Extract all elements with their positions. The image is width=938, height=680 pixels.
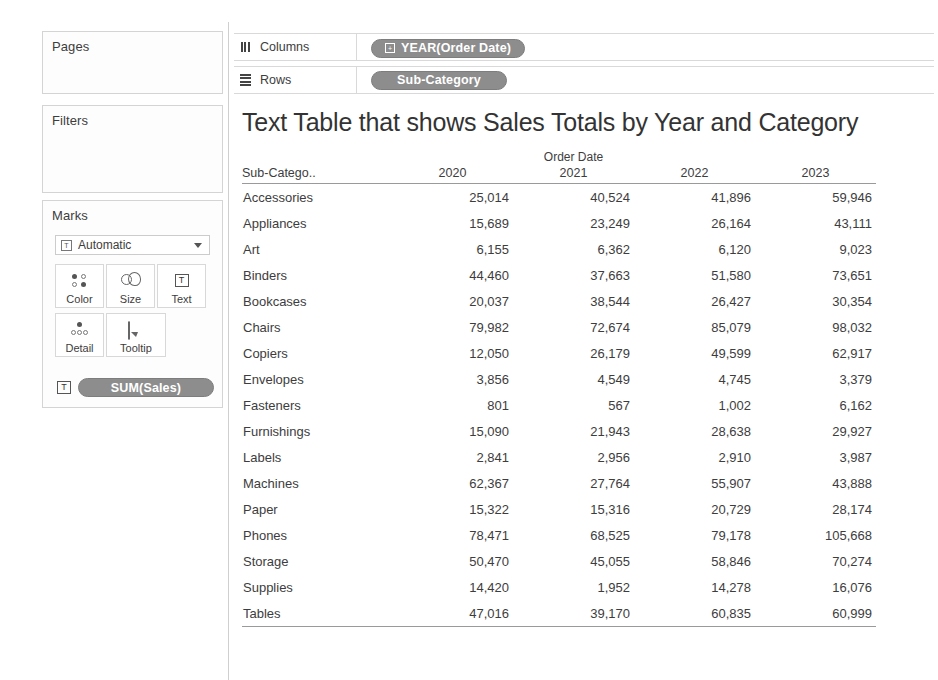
sales-value-cell[interactable]: 51,580: [634, 262, 755, 288]
row-category-cell[interactable]: Binders: [242, 262, 392, 288]
marks-detail-button[interactable]: Detail: [55, 313, 104, 357]
sales-value-cell[interactable]: 73,651: [755, 262, 876, 288]
row-category-cell[interactable]: Chairs: [242, 314, 392, 340]
sales-value-cell[interactable]: 6,162: [755, 392, 876, 418]
sales-value-cell[interactable]: 1,952: [513, 574, 634, 600]
sales-value-cell[interactable]: 30,354: [755, 288, 876, 314]
sales-value-cell[interactable]: 20,037: [392, 288, 513, 314]
sales-value-cell[interactable]: 14,278: [634, 574, 755, 600]
year-column-header-2023[interactable]: 2023: [755, 166, 876, 184]
row-category-cell[interactable]: Supplies: [242, 574, 392, 600]
sales-value-cell[interactable]: 26,164: [634, 210, 755, 236]
sales-value-cell[interactable]: 79,982: [392, 314, 513, 340]
year-column-header-2020[interactable]: 2020: [392, 166, 513, 184]
sales-value-cell[interactable]: 38,544: [513, 288, 634, 314]
row-category-cell[interactable]: Storage: [242, 548, 392, 574]
sum-sales-pill[interactable]: SUM(Sales): [78, 378, 214, 397]
sales-value-cell[interactable]: 78,471: [392, 522, 513, 548]
sales-value-cell[interactable]: 28,638: [634, 418, 755, 444]
sales-value-cell[interactable]: 50,470: [392, 548, 513, 574]
columns-shelf-row[interactable]: Columns + YEAR(Order Date): [234, 33, 934, 61]
sales-value-cell[interactable]: 39,170: [513, 600, 634, 627]
sales-value-cell[interactable]: 44,460: [392, 262, 513, 288]
sales-value-cell[interactable]: 62,917: [755, 340, 876, 366]
year-column-header-2022[interactable]: 2022: [634, 166, 755, 184]
row-category-cell[interactable]: Phones: [242, 522, 392, 548]
row-category-cell[interactable]: Envelopes: [242, 366, 392, 392]
sales-value-cell[interactable]: 3,856: [392, 366, 513, 392]
sales-value-cell[interactable]: 26,179: [513, 340, 634, 366]
sales-value-cell[interactable]: 43,111: [755, 210, 876, 236]
sales-value-cell[interactable]: 37,663: [513, 262, 634, 288]
sales-value-cell[interactable]: 567: [513, 392, 634, 418]
sales-value-cell[interactable]: 55,907: [634, 470, 755, 496]
sales-value-cell[interactable]: 72,674: [513, 314, 634, 340]
sales-value-cell[interactable]: 23,249: [513, 210, 634, 236]
sales-value-cell[interactable]: 4,745: [634, 366, 755, 392]
sales-value-cell[interactable]: 3,379: [755, 366, 876, 392]
sales-value-cell[interactable]: 49,599: [634, 340, 755, 366]
sales-value-cell[interactable]: 70,274: [755, 548, 876, 574]
sales-value-cell[interactable]: 25,014: [392, 184, 513, 211]
marks-text-button[interactable]: T Text: [157, 264, 206, 308]
sales-value-cell[interactable]: 68,525: [513, 522, 634, 548]
pages-shelf[interactable]: Pages: [42, 31, 223, 94]
row-category-cell[interactable]: Furnishings: [242, 418, 392, 444]
sales-value-cell[interactable]: 6,120: [634, 236, 755, 262]
sales-value-cell[interactable]: 4,549: [513, 366, 634, 392]
sales-value-cell[interactable]: 105,668: [755, 522, 876, 548]
sales-value-cell[interactable]: 12,050: [392, 340, 513, 366]
sales-value-cell[interactable]: 26,427: [634, 288, 755, 314]
row-category-cell[interactable]: Tables: [242, 600, 392, 627]
sales-value-cell[interactable]: 15,316: [513, 496, 634, 522]
sales-value-cell[interactable]: 2,910: [634, 444, 755, 470]
sales-value-cell[interactable]: 47,016: [392, 600, 513, 627]
row-category-cell[interactable]: Art: [242, 236, 392, 262]
sales-value-cell[interactable]: 16,076: [755, 574, 876, 600]
sales-value-cell[interactable]: 28,174: [755, 496, 876, 522]
sales-value-cell[interactable]: 98,032: [755, 314, 876, 340]
row-category-cell[interactable]: Appliances: [242, 210, 392, 236]
sub-category-pill[interactable]: Sub-Category: [371, 71, 507, 90]
sales-value-cell[interactable]: 79,178: [634, 522, 755, 548]
year-order-date-pill[interactable]: + YEAR(Order Date): [371, 39, 525, 58]
sales-value-cell[interactable]: 27,764: [513, 470, 634, 496]
sales-value-cell[interactable]: 40,524: [513, 184, 634, 211]
sales-value-cell[interactable]: 58,846: [634, 548, 755, 574]
sales-value-cell[interactable]: 62,367: [392, 470, 513, 496]
sub-category-column-header[interactable]: Sub-Catego..: [242, 166, 392, 184]
sales-value-cell[interactable]: 15,322: [392, 496, 513, 522]
year-column-header-2021[interactable]: 2021: [513, 166, 634, 184]
row-category-cell[interactable]: Bookcases: [242, 288, 392, 314]
marks-size-button[interactable]: Size: [106, 264, 155, 308]
marks-type-dropdown[interactable]: T Automatic: [55, 235, 210, 255]
row-category-cell[interactable]: Machines: [242, 470, 392, 496]
row-category-cell[interactable]: Paper: [242, 496, 392, 522]
filters-shelf[interactable]: Filters: [42, 105, 223, 193]
sales-value-cell[interactable]: 6,155: [392, 236, 513, 262]
row-category-cell[interactable]: Labels: [242, 444, 392, 470]
sales-value-cell[interactable]: 3,987: [755, 444, 876, 470]
sales-value-cell[interactable]: 59,946: [755, 184, 876, 211]
row-category-cell[interactable]: Fasteners: [242, 392, 392, 418]
marks-tooltip-button[interactable]: Tooltip: [106, 313, 166, 357]
sales-value-cell[interactable]: 29,927: [755, 418, 876, 444]
sales-value-cell[interactable]: 20,729: [634, 496, 755, 522]
sales-value-cell[interactable]: 41,896: [634, 184, 755, 211]
row-category-cell[interactable]: Accessories: [242, 184, 392, 211]
rows-shelf-row[interactable]: Rows Sub-Category: [234, 66, 934, 94]
sales-value-cell[interactable]: 9,023: [755, 236, 876, 262]
sales-value-cell[interactable]: 6,362: [513, 236, 634, 262]
sales-value-cell[interactable]: 15,689: [392, 210, 513, 236]
sales-value-cell[interactable]: 1,002: [634, 392, 755, 418]
sales-value-cell[interactable]: 2,956: [513, 444, 634, 470]
sales-value-cell[interactable]: 43,888: [755, 470, 876, 496]
sales-value-cell[interactable]: 60,835: [634, 600, 755, 627]
sales-value-cell[interactable]: 21,943: [513, 418, 634, 444]
sales-value-cell[interactable]: 45,055: [513, 548, 634, 574]
sales-value-cell[interactable]: 85,079: [634, 314, 755, 340]
marks-color-button[interactable]: Color: [55, 264, 104, 308]
sales-value-cell[interactable]: 14,420: [392, 574, 513, 600]
sales-value-cell[interactable]: 60,999: [755, 600, 876, 627]
sales-value-cell[interactable]: 15,090: [392, 418, 513, 444]
